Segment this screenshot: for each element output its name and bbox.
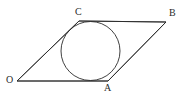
rhombus-outline <box>17 21 166 81</box>
geometry-figure: C B O A <box>0 0 182 99</box>
vertex-label-c: C <box>75 7 82 17</box>
vertex-label-a: A <box>104 83 111 93</box>
vertex-label-b: B <box>169 8 176 18</box>
vertex-label-o: O <box>6 75 13 85</box>
geometry-canvas <box>0 0 182 99</box>
side-BA-line <box>108 22 166 81</box>
inscribed-circle <box>61 22 120 81</box>
